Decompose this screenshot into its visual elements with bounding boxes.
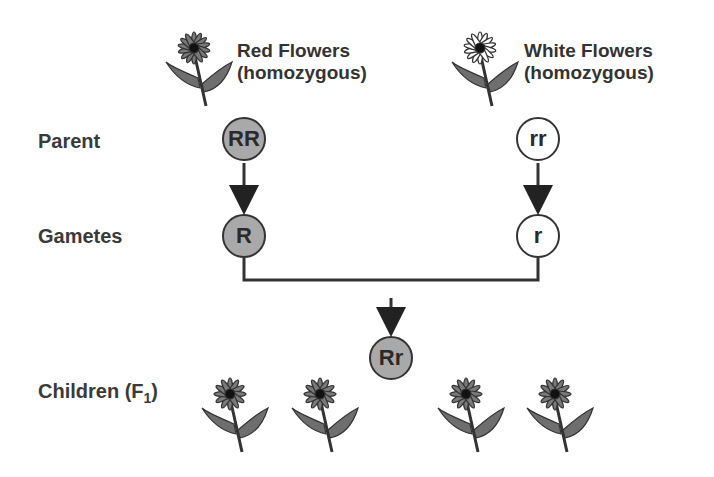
offspring-red-flower-icon — [432, 374, 502, 454]
offspring-red-flower-icon — [286, 374, 356, 454]
gamete-join-bracket — [244, 258, 538, 280]
offspring-red-flower-icon — [521, 374, 591, 454]
connector-lines — [0, 0, 714, 477]
offspring-red-flower-icon — [196, 374, 266, 454]
